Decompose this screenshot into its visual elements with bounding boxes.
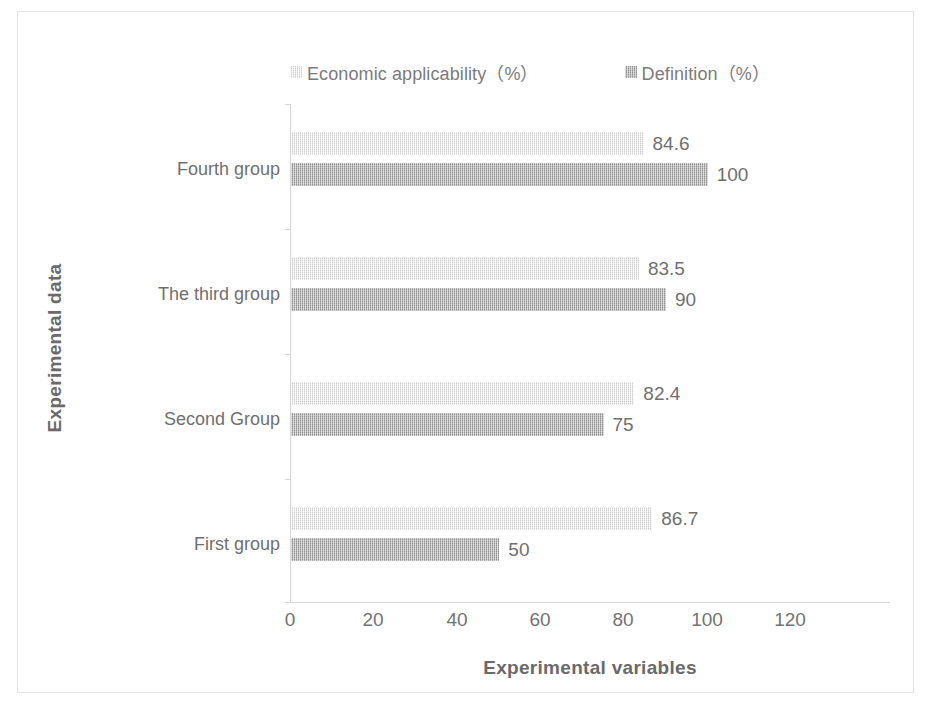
- x-axis-title: Experimental variables: [290, 657, 890, 679]
- bar-value-definition-fourth-group: 100: [708, 164, 749, 186]
- bar-definition-first-group[interactable]: [291, 538, 499, 561]
- bar-value-economic-applicability-fourth-group: 84.6: [644, 133, 690, 155]
- legend-label-definition: Definition（%）: [642, 59, 770, 85]
- chart-legend: Economic applicability（%） Definition（%）: [290, 56, 810, 88]
- legend-swatch-icon-economic-applicability: [290, 66, 302, 78]
- category-label-fourth-group: Fourth group: [177, 159, 280, 180]
- x-tick-label-20: 20: [362, 609, 383, 631]
- category-axis: Fourth group The third group Second Grou…: [108, 104, 280, 602]
- bar-economic-applicability-third-group[interactable]: [291, 257, 639, 280]
- bar-economic-applicability-first-group[interactable]: [291, 507, 652, 530]
- legend-entry-definition[interactable]: Definition（%）: [625, 59, 770, 85]
- x-tick-label-120: 120: [774, 609, 806, 631]
- category-label-second-group: Second Group: [164, 409, 280, 430]
- bar-value-economic-applicability-third-group: 83.5: [639, 258, 685, 280]
- bar-definition-fourth-group[interactable]: [291, 163, 708, 186]
- bar-economic-applicability-second-group[interactable]: [291, 382, 634, 405]
- x-tick-label-100: 100: [691, 609, 723, 631]
- x-axis: 0 20 40 60 80 100 120: [290, 602, 890, 642]
- y-axis-tick: [285, 104, 290, 105]
- bar-value-economic-applicability-first-group: 86.7: [652, 508, 698, 530]
- bar-value-definition-first-group: 50: [499, 539, 529, 561]
- bar-definition-third-group[interactable]: [291, 288, 666, 311]
- x-tick-label-80: 80: [612, 609, 633, 631]
- x-tick-label-0: 0: [285, 609, 296, 631]
- legend-entry-economic-applicability[interactable]: Economic applicability（%）: [290, 59, 539, 85]
- legend-label-economic-applicability: Economic applicability（%）: [307, 59, 539, 85]
- bar-value-definition-second-group: 75: [604, 414, 634, 436]
- y-axis-tick: [285, 354, 290, 355]
- bar-value-economic-applicability-second-group: 82.4: [634, 383, 680, 405]
- y-axis-tick: [285, 229, 290, 230]
- y-axis-title: Experimental data: [44, 248, 66, 448]
- x-axis-line: [290, 602, 890, 603]
- category-label-third-group: The third group: [158, 284, 280, 305]
- bar-definition-second-group[interactable]: [291, 413, 604, 436]
- legend-swatch-icon-definition: [625, 66, 637, 78]
- bar-economic-applicability-fourth-group[interactable]: [291, 132, 644, 155]
- chart-figure-frame: Economic applicability（%） Definition（%） …: [17, 11, 914, 693]
- category-label-first-group: First group: [194, 534, 280, 555]
- plot-area: 84.6 100 83.5 90 82.4: [290, 104, 890, 602]
- y-axis-tick: [285, 479, 290, 480]
- bar-value-definition-third-group: 90: [666, 289, 696, 311]
- x-tick-label-40: 40: [446, 609, 467, 631]
- x-tick-label-60: 60: [529, 609, 550, 631]
